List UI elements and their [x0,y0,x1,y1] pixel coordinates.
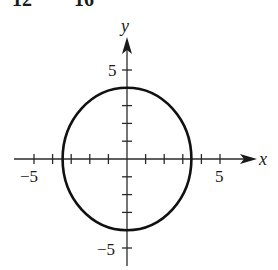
x-axis-label: x [258,149,267,169]
x-tick-label-5: 5 [215,167,224,186]
y-tick-label-5: 5 [108,61,117,80]
y-tick-label-neg5: −5 [97,240,115,259]
header-fragment-left: 12 [12,0,32,10]
cut-off-header: 12 16 [12,0,94,10]
x-tick-label-neg5: −5 [20,167,38,186]
y-axis-label: y [119,16,129,36]
x-axis: x −5 5 [14,149,267,186]
header-fragment-right: 16 [74,0,94,10]
ellipse-graph: 12 16 x −5 5 y 5 −5 [0,0,278,270]
